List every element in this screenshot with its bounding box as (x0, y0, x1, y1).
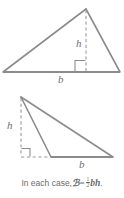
fraction-denominator: 2 (86, 182, 91, 189)
one-half-fraction: 12 (86, 177, 91, 190)
acute-triangle-right-side (86, 9, 120, 72)
base-label-acute-triangle: b (58, 74, 64, 85)
height-label-acute-triangle: h (76, 38, 82, 49)
triangle-area-figure: h b h b In each case,ℬ=12bh. (0, 0, 124, 198)
figure-caption: In each case,ℬ=12bh. (0, 177, 124, 190)
equals-sign: = (78, 178, 85, 188)
height-label-obtuse-triangle: h (7, 120, 13, 131)
obtuse-triangle-right-angle-mark (22, 149, 31, 157)
obtuse-triangle-hypotenuse-side (21, 97, 113, 157)
base-label-obtuse-triangle: b (79, 159, 85, 170)
caption-period: . (100, 178, 102, 188)
acute-triangle-right-angle-mark (75, 61, 86, 72)
caption-lead-text: In each case, (21, 178, 72, 188)
base-height-expression: bh (90, 178, 100, 188)
acute-triangle-group (3, 9, 120, 72)
figure-canvas (0, 0, 124, 198)
obtuse-triangle-group (21, 97, 113, 157)
acute-triangle-left-side (3, 9, 86, 72)
